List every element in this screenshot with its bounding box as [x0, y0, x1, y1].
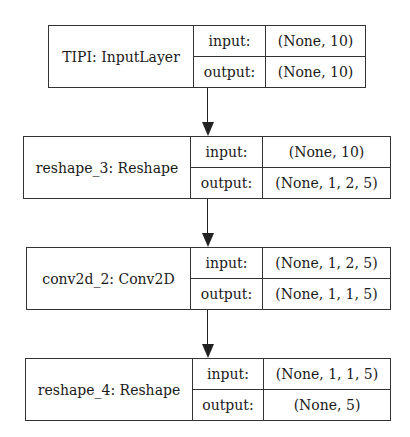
node-conv2d-2: conv2d_2: Conv2D input: output: (None, 1…	[26, 247, 391, 310]
node-reshape-3: reshape_3: Reshape input: output: (None,…	[23, 136, 391, 199]
node-tipi-inputlayer: TIPI: InputLayer input: output: (None, 1…	[48, 25, 366, 88]
node-name: reshape_3: Reshape	[24, 137, 191, 198]
arrow-head-icon	[202, 122, 214, 136]
node-name: conv2d_2: Conv2D	[27, 248, 191, 309]
input-label: input:	[191, 137, 262, 168]
input-label: input:	[193, 359, 263, 390]
input-shape: (None, 1, 1, 5)	[264, 359, 390, 390]
input-shape: (None, 10)	[266, 26, 365, 57]
output-label: output:	[194, 57, 265, 87]
output-shape: (None, 1, 2, 5)	[263, 168, 390, 198]
node-name: reshape_4: Reshape	[26, 359, 193, 420]
input-shape: (None, 1, 2, 5)	[263, 248, 390, 279]
node-name: TIPI: InputLayer	[49, 26, 194, 87]
arrow-head-icon	[202, 344, 214, 358]
edge-line	[207, 310, 208, 346]
output-shape: (None, 5)	[264, 390, 390, 420]
output-shape: (None, 1, 1, 5)	[263, 279, 390, 309]
output-label: output:	[193, 390, 263, 420]
output-label: output:	[191, 168, 262, 198]
output-label: output:	[191, 279, 262, 309]
node-reshape-4: reshape_4: Reshape input: output: (None,…	[25, 358, 391, 421]
edge-line	[207, 88, 208, 124]
edge-line	[207, 199, 208, 235]
output-shape: (None, 10)	[266, 57, 365, 87]
arrow-head-icon	[202, 233, 214, 247]
input-shape: (None, 10)	[263, 137, 390, 168]
input-label: input:	[194, 26, 265, 57]
input-label: input:	[191, 248, 262, 279]
